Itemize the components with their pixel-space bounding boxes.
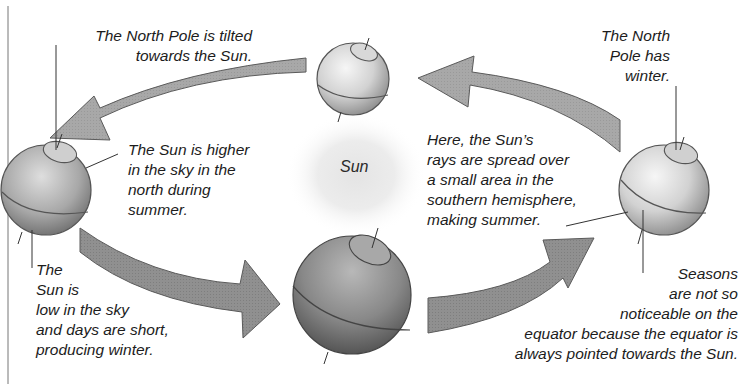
label-sun-low: The Sun is low in the sky and days are s…	[36, 260, 169, 360]
label-equator-note: Seasons are not so noticeable on the equ…	[460, 264, 738, 364]
earth-top	[317, 38, 389, 122]
leader-sun-higher	[86, 154, 118, 168]
label-north-pole-winter: The North Pole has winter.	[560, 26, 670, 86]
label-north-pole-tilted: The North Pole is tilted towards the Sun…	[60, 26, 252, 66]
label-sun-higher: The Sun is higher in the sky in the nort…	[128, 140, 250, 220]
label-sun-rays-spread: Here, the Sun’s rays are spread over a s…	[427, 130, 577, 230]
sun-label: Sun	[340, 158, 368, 176]
earth-bottom	[293, 228, 411, 364]
orbit-arrow-top-left	[50, 58, 306, 140]
earth-left-northern-summer	[1, 134, 91, 244]
earth-right-northern-winter	[619, 137, 709, 244]
seasons-diagram: Sun The North Pole is tilted towards the…	[0, 0, 742, 384]
